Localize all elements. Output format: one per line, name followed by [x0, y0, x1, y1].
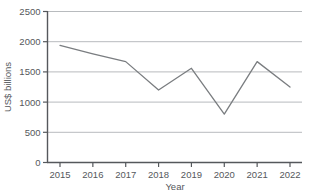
data-series-line [60, 45, 290, 114]
x-axis-tick-label: 2017 [115, 169, 136, 180]
y-axis-tick-label: 2500 [19, 6, 40, 17]
y-axis-tick-label: 0 [35, 157, 40, 168]
y-axis-tick-label: 1500 [19, 66, 40, 77]
x-axis-title: Year [165, 181, 184, 192]
x-axis-tick-label: 2018 [148, 169, 169, 180]
x-axis-tick-label: 2021 [247, 169, 268, 180]
x-axis-tick-label: 2020 [214, 169, 235, 180]
y-axis-tick-labels: 05001000150020002500 [19, 6, 40, 168]
line-chart: 05001000150020002500 2015201620172018201… [0, 0, 310, 194]
x-axis-tick-label: 2022 [279, 169, 300, 180]
y-axis-tick-label: 2000 [19, 36, 40, 47]
y-axis-tick-label: 500 [25, 127, 41, 138]
x-axis-tick-label: 2016 [82, 169, 103, 180]
y-axis-tick-label: 1000 [19, 97, 40, 108]
chart-canvas: 05001000150020002500 2015201620172018201… [0, 0, 310, 194]
gridlines [48, 12, 303, 133]
y-axis-title: US$ billions [2, 62, 13, 112]
x-axis-tick-label: 2019 [181, 169, 202, 180]
axis-spines [47, 11, 302, 163]
x-axis-tick-label: 2015 [49, 169, 70, 180]
x-axis-tick-labels: 20152016201720182019202020212022 [49, 169, 300, 180]
